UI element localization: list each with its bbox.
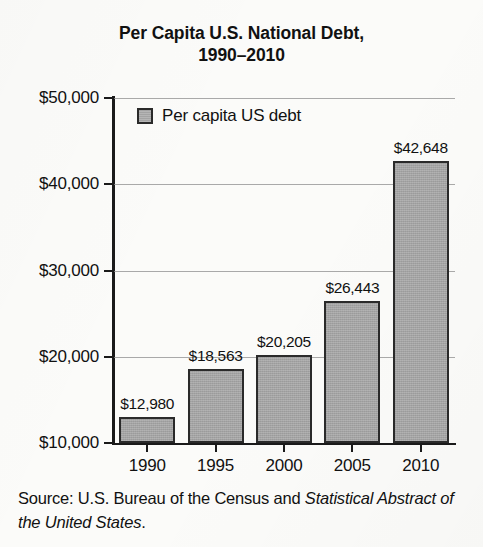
- bar-value-label: $20,205: [257, 333, 311, 351]
- y-axis-label: $20,000: [39, 347, 99, 367]
- bar[interactable]: [324, 301, 380, 443]
- legend-label: Per capita US debt: [162, 106, 301, 126]
- bar-group: $18,5631995: [181, 98, 249, 443]
- source-note: Source: U.S. Bureau of the Census and St…: [18, 487, 475, 535]
- bar-value-label: $12,980: [120, 395, 174, 413]
- bar-group: $20,2052000: [250, 98, 318, 443]
- x-axis-tick: [215, 443, 217, 452]
- x-axis-tick: [146, 443, 148, 452]
- chart-figure: Per Capita U.S. National Debt, 1990–2010…: [0, 0, 483, 547]
- bar[interactable]: [188, 369, 244, 443]
- legend-swatch-icon: [137, 108, 153, 124]
- chart-legend: Per capita US debt: [137, 106, 301, 126]
- bar-series: $12,9801990$18,5631995$20,2052000$26,443…: [113, 98, 455, 443]
- bar[interactable]: [256, 355, 312, 443]
- bar-group: $12,9801990: [113, 98, 181, 443]
- y-axis-label: $30,000: [39, 261, 99, 281]
- bar-value-label: $18,563: [189, 347, 243, 365]
- bar-group: $26,4432005: [318, 98, 386, 443]
- x-axis-label: 1990: [129, 456, 166, 476]
- source-prefix: Source: U.S. Bureau of the Census and: [18, 489, 305, 507]
- x-axis-label: 1995: [197, 456, 234, 476]
- x-axis-tick: [420, 443, 422, 452]
- x-axis-label: 2010: [402, 456, 439, 476]
- bar[interactable]: [393, 161, 449, 443]
- y-axis-label: $40,000: [39, 174, 99, 194]
- bar[interactable]: [119, 417, 175, 443]
- y-axis-label: $10,000: [39, 433, 99, 453]
- x-axis-label: 2005: [334, 456, 371, 476]
- chart-title-line-1: Per Capita U.S. National Debt,: [0, 22, 483, 44]
- x-axis-tick: [283, 443, 285, 452]
- plot-area: $10,000$20,000$30,000$40,000$50,000 $12,…: [113, 98, 455, 443]
- bar-group: $42,6482010: [387, 98, 455, 443]
- source-suffix: .: [141, 513, 145, 531]
- chart-title-line-2: 1990–2010: [0, 44, 483, 66]
- y-axis-label: $50,000: [39, 88, 99, 108]
- x-axis-label: 2000: [265, 456, 302, 476]
- bar-value-label: $42,648: [394, 139, 448, 157]
- chart-title: Per Capita U.S. National Debt, 1990–2010: [0, 22, 483, 67]
- x-axis-tick: [351, 443, 353, 452]
- bar-value-label: $26,443: [325, 279, 379, 297]
